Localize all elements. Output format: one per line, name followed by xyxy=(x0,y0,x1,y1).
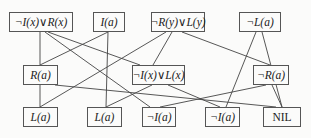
edge-11 xyxy=(55,85,276,107)
node-n11: ¬I(a) xyxy=(205,107,240,127)
node-n10: ¬I(a) xyxy=(142,107,176,127)
node-n9: L(a) xyxy=(87,107,122,127)
edge-3 xyxy=(40,32,108,65)
node-n12: NIL xyxy=(263,107,301,127)
node-n1: ¬I(x)∨R(x) xyxy=(9,12,73,32)
edge-6 xyxy=(153,32,172,65)
node-n6: ¬I(x)∨L(x) xyxy=(132,65,185,85)
node-n7: ¬R(a) xyxy=(253,65,289,85)
node-n5: R(a) xyxy=(23,65,58,85)
edge-4 xyxy=(106,32,108,107)
edge-7 xyxy=(182,32,270,65)
node-n4: ¬L(a) xyxy=(239,12,281,32)
node-n8: L(a) xyxy=(23,107,58,127)
edge-2 xyxy=(48,32,140,65)
edge-8 xyxy=(226,32,256,107)
node-n3: ¬R(y)∨L(y) xyxy=(151,12,205,32)
node-n2: I(a) xyxy=(93,12,125,32)
